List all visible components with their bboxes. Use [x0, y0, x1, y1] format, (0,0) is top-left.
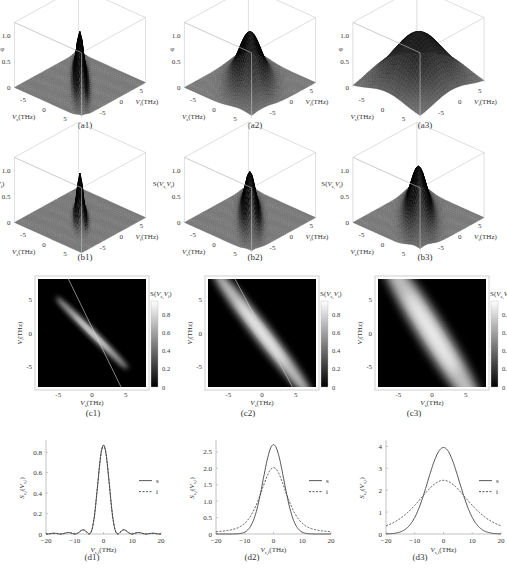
svg-text:0.2: 0.2 [332, 365, 340, 372]
svg-text:0.8: 0.8 [33, 449, 42, 457]
svg-text:1.0: 1.0 [340, 32, 349, 40]
svg-text:−20: −20 [211, 537, 222, 545]
svg-text:0: 0 [120, 233, 124, 241]
svg-text:-5: -5 [190, 96, 196, 104]
svg-text:Ss,i​(Vs,i​): Ss,i​(Vs,i​) [18, 477, 28, 499]
svg-text:0.8: 0.8 [162, 311, 170, 318]
svg-text:0: 0 [272, 537, 276, 545]
svg-text:10: 10 [469, 537, 477, 545]
svg-text:-5: -5 [270, 109, 276, 117]
svg-text:0.5: 0.5 [2, 193, 11, 201]
svg-text:Vs​(THz): Vs​(THz) [350, 113, 374, 122]
svg-text:0.5: 0.5 [340, 58, 349, 66]
svg-text:0.2: 0.2 [162, 365, 170, 372]
caption-b1: (b1) [55, 252, 115, 262]
svg-text:0.5: 0.5 [172, 193, 181, 201]
caption-c2: (c2) [218, 408, 278, 418]
svg-text:-5: -5 [190, 231, 196, 239]
svg-text:-5: -5 [395, 391, 401, 399]
caption-c3: (c3) [384, 408, 444, 418]
panel-c1: -505-505Vs​(THz)Vi​(THz)00.20.40.60.8S(V… [0, 270, 170, 405]
surface-plot-a2: 00.51.0φ-505Vs​(THz)50-5Vi​(THz) [170, 0, 340, 118]
svg-text:5: 5 [310, 87, 314, 95]
svg-text:2.0: 2.0 [203, 465, 212, 473]
surface-plot-a1: 00.51.0φ-505Vs​(THz)50-5Vi​(THz) [0, 0, 170, 118]
svg-text:Vi​(THz): Vi​(THz) [306, 98, 329, 107]
svg-text:Vi​(THz): Vi​(THz) [474, 233, 497, 242]
svg-text:0: 0 [29, 330, 33, 338]
svg-text:Vi​(THz): Vi​(THz) [186, 321, 195, 344]
svg-text:4: 4 [379, 443, 383, 451]
svg-text:0: 0 [332, 384, 335, 391]
svg-text:i: i [326, 488, 328, 496]
heatmap-c2: -505-505Vs​(THz)Vi​(THz)00.20.40.60.8S(V… [170, 270, 340, 405]
svg-text:5: 5 [140, 87, 144, 95]
panel-b1: 00.51.0S(Vs,​Vi​)-505Vs​(THz)50-5Vi​(THz… [0, 135, 170, 260]
svg-text:-5: -5 [438, 109, 444, 117]
svg-text:-5: -5 [55, 391, 61, 399]
svg-text:1.0: 1.0 [340, 167, 349, 175]
svg-text:S(Vs,​Vi​): S(Vs,​Vi​) [150, 290, 172, 300]
caption-b2: (b2) [225, 252, 285, 262]
surface-plot-b3: 00.51.0S(Vs,​Vi​)-505Vs​(THz)50-5Vi​(THz… [340, 135, 507, 253]
svg-text:0.5: 0.5 [2, 58, 11, 66]
svg-text:φ: φ [0, 45, 4, 53]
panel-d3: −20−100102001234Vs,i​(THz)Ss,i​(Vs,i​)si [340, 430, 507, 560]
svg-text:0: 0 [42, 241, 46, 249]
svg-text:1.5: 1.5 [203, 481, 212, 489]
svg-text:-5: -5 [100, 109, 106, 117]
svg-text:φ: φ [339, 45, 343, 53]
svg-text:0: 0 [212, 106, 216, 114]
svg-text:0.2: 0.2 [502, 365, 507, 372]
svg-text:Vs​(THz): Vs​(THz) [420, 399, 444, 408]
caption-d3: (d3) [390, 552, 450, 562]
caption-a3: (a3) [395, 120, 455, 130]
svg-text:0: 0 [177, 84, 181, 92]
svg-text:20: 20 [328, 537, 336, 545]
panel-a1: 00.51.0φ-505Vs​(THz)50-5Vi​(THz) [0, 0, 170, 130]
svg-text:0.5: 0.5 [172, 58, 181, 66]
svg-text:5: 5 [124, 391, 128, 399]
svg-text:Ss,i​(Vs,i​): Ss,i​(Vs,i​) [188, 477, 198, 499]
panel-b3: 00.51.0S(Vs,​Vi​)-505Vs​(THz)50-5Vi​(THz… [340, 135, 507, 260]
panel-d1: −20−100102000.20.40.60.8Vs,i​(THz)Ss,i​(… [0, 430, 170, 560]
svg-text:-5: -5 [225, 391, 231, 399]
surface-plot-b1: 00.51.0S(Vs,​Vi​)-505Vs​(THz)50-5Vi​(THz… [0, 135, 170, 253]
svg-text:0: 0 [120, 98, 124, 106]
svg-text:0: 0 [381, 106, 385, 114]
svg-text:0.8: 0.8 [332, 311, 340, 318]
svg-text:5: 5 [140, 222, 144, 230]
svg-text:5: 5 [464, 391, 468, 399]
svg-text:0: 0 [102, 537, 106, 545]
panel-c3: -505-505Vs​(THz)Vi​(THz)00.20.40.60.8S(V… [340, 270, 507, 405]
caption-b3: (b3) [395, 252, 455, 262]
caption-c1: (c1) [63, 408, 123, 418]
heatmap-c1: -505-505Vs​(THz)Vi​(THz)00.20.40.60.8S(V… [0, 270, 170, 405]
svg-text:0: 0 [260, 391, 264, 399]
svg-text:0: 0 [369, 330, 373, 338]
svg-text:0: 0 [7, 219, 11, 227]
svg-text:0: 0 [90, 391, 94, 399]
svg-text:0: 0 [42, 106, 46, 114]
panel-a2: 00.51.0φ-505Vs​(THz)50-5Vi​(THz) [170, 0, 340, 130]
svg-text:0: 0 [7, 84, 11, 92]
svg-text:5: 5 [294, 391, 298, 399]
svg-text:-5: -5 [100, 244, 106, 252]
svg-text:0: 0 [162, 384, 165, 391]
panel-b2: 00.51.0S(Vs,​Vi​)-505Vs​(THz)50-5Vi​(THz… [170, 135, 340, 260]
svg-text:0.4: 0.4 [502, 347, 507, 354]
svg-text:-5: -5 [359, 231, 365, 239]
svg-text:1.0: 1.0 [203, 498, 212, 506]
svg-text:Vs​(THz): Vs​(THz) [12, 248, 36, 257]
svg-text:2.5: 2.5 [203, 448, 212, 456]
heatmap-c3: -505-505Vs​(THz)Vi​(THz)00.20.40.60.8S(V… [340, 270, 507, 405]
svg-text:0: 0 [290, 98, 294, 106]
svg-text:s: s [326, 477, 329, 485]
svg-text:5: 5 [199, 296, 203, 304]
svg-text:−20: −20 [381, 537, 392, 545]
svg-text:0: 0 [212, 241, 216, 249]
svg-text:1: 1 [379, 509, 383, 517]
svg-text:0.2: 0.2 [33, 510, 42, 518]
svg-text:-5: -5 [20, 231, 26, 239]
svg-text:10: 10 [299, 537, 307, 545]
